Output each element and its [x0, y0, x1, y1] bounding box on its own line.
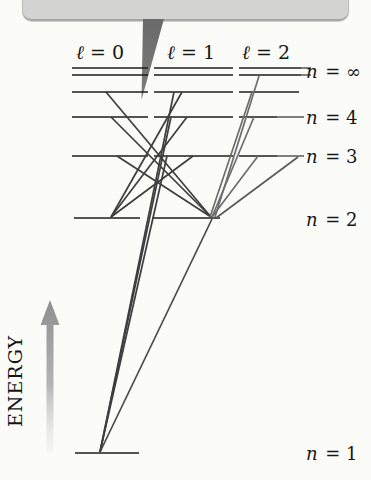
transition-inf-d-2p	[215, 76, 259, 217]
level-label-inf: n = ∞	[306, 61, 361, 82]
column-header-l0-var: ℓ	[76, 41, 84, 63]
level-label-inf-var: n	[306, 61, 320, 82]
transition-5d-2p	[210, 92, 252, 217]
transition-lines	[100, 76, 298, 452]
level-label-4-value: = 4	[320, 107, 358, 128]
column-header-l1-var: ℓ	[167, 41, 175, 63]
transition-3d-2p	[212, 156, 258, 217]
transition-5p-1s	[100, 92, 174, 452]
level-label-1-var: n	[306, 443, 320, 464]
level-label-3: n = 3	[306, 146, 358, 167]
column-header-l1: ℓ = 1	[167, 41, 215, 64]
column-header-l0: ℓ = 0	[76, 41, 124, 64]
callout-pointer-icon	[142, 19, 165, 100]
column-header-l2: ℓ = 2	[242, 41, 290, 64]
level-label-3-value: = 3	[320, 146, 358, 167]
level-label-3-var: n	[306, 146, 320, 167]
level-label-4-var: n	[306, 107, 320, 128]
energy-arrow-icon	[41, 300, 60, 452]
figure-stage: ENERGY ℓ = 0ℓ = 1ℓ = 2n = ∞n = 4n = 3n =…	[0, 0, 371, 480]
level-label-inf-value: = ∞	[320, 61, 362, 82]
level-label-2: n = 2	[306, 209, 358, 230]
column-header-l2-var: ℓ	[242, 41, 250, 63]
column-header-l2-value: = 2	[250, 41, 290, 63]
level-label-1-value: = 1	[320, 443, 358, 464]
transition-2p-1s	[100, 219, 212, 452]
transition-3s-2p	[117, 156, 211, 217]
level-label-2-value: = 2	[320, 209, 358, 230]
energy-axis-label: ENERGY	[4, 330, 30, 432]
level-label-1: n = 1	[306, 443, 358, 464]
transition-4p-2s	[111, 117, 187, 217]
level-label-2-var: n	[306, 209, 320, 230]
column-header-l0-value: = 0	[84, 41, 124, 63]
transition-4d-2p	[212, 117, 254, 217]
transition-4s-2p	[111, 117, 211, 217]
level-label-4: n = 4	[306, 107, 358, 128]
transition-3d-2p-right	[216, 157, 298, 218]
column-header-l1-value: = 1	[175, 41, 215, 63]
